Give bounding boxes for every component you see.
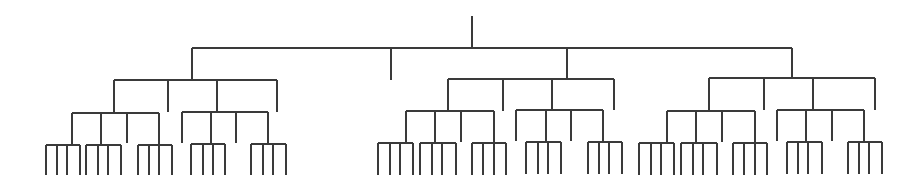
branch-node: [182, 80, 286, 175]
subtrees: [46, 48, 882, 175]
tree-diagram-canvas: [0, 0, 923, 182]
branch-node: [46, 80, 172, 175]
branch-node: [777, 78, 882, 174]
leaf-group: [588, 110, 622, 174]
subtree-middle: [378, 48, 622, 175]
root-node: [192, 16, 792, 80]
leaf-group: [681, 111, 717, 175]
leaf-group: [191, 112, 225, 175]
leaf-group: [733, 111, 767, 175]
leaf-group: [420, 111, 456, 175]
leaf-group: [86, 113, 121, 175]
branch-node: [516, 79, 622, 174]
leaf-group: [472, 111, 506, 175]
leaf-group: [378, 111, 413, 175]
leaf-group: [526, 110, 561, 174]
leaf-group: [639, 111, 674, 175]
leaf-group: [138, 113, 172, 175]
subtree-right: [639, 48, 882, 175]
leaf-group: [848, 110, 882, 174]
branch-node: [378, 79, 506, 175]
branch-node: [639, 78, 767, 175]
leaf-group: [787, 110, 822, 174]
tree-diagram: [0, 0, 923, 182]
leaf-group: [46, 113, 80, 175]
subtree-left: [46, 48, 286, 175]
leaf-group: [251, 112, 286, 175]
